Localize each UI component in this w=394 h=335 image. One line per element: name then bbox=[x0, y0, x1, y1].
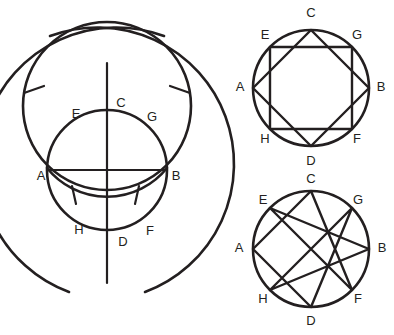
compass-tick-right bbox=[170, 86, 190, 93]
octagon-label-A: A bbox=[236, 79, 245, 94]
construction-label-D: D bbox=[118, 234, 127, 249]
octagon-label-E: E bbox=[261, 27, 270, 42]
geometry-figure: A B C D E F G H C E G A B H F D bbox=[0, 0, 394, 335]
figure-canvas: A B C D E F G H C E G A B H F D bbox=[0, 0, 394, 335]
construction-label-A: A bbox=[37, 168, 46, 183]
octagon-label-F: F bbox=[353, 131, 361, 146]
octagram-label-G: G bbox=[353, 192, 363, 207]
construction-label-B: B bbox=[172, 168, 181, 183]
panel-construction: A B C D E F G H bbox=[0, 22, 234, 292]
octagram-label-F: F bbox=[354, 291, 362, 306]
octagram-label-C: C bbox=[306, 171, 315, 186]
construction-label-E: E bbox=[72, 106, 81, 121]
construction-label-C: C bbox=[116, 95, 125, 110]
panel-octagon: C E G A B H F D bbox=[236, 5, 386, 168]
construction-arc-left bbox=[0, 27, 164, 292]
octagon-label-G: G bbox=[352, 27, 362, 42]
arc-tick-right bbox=[135, 186, 139, 204]
panel-octagram: C E G A B H F D bbox=[235, 171, 387, 328]
octagon-label-C: C bbox=[306, 5, 315, 20]
octagram-label-A: A bbox=[235, 240, 244, 255]
octagram-label-H: H bbox=[258, 291, 267, 306]
octagram-star-path bbox=[253, 191, 369, 307]
construction-label-G: G bbox=[147, 109, 157, 124]
construction-label-H: H bbox=[74, 222, 83, 237]
octagon-label-D: D bbox=[306, 153, 315, 168]
octagram-label-D: D bbox=[306, 313, 315, 328]
compass-tick-left bbox=[24, 86, 44, 93]
octagon-label-H: H bbox=[260, 131, 269, 146]
octagram-label-B: B bbox=[378, 240, 387, 255]
octagram-label-E: E bbox=[259, 192, 268, 207]
octagon-label-B: B bbox=[377, 79, 386, 94]
construction-label-F: F bbox=[146, 223, 154, 238]
construction-arc-right bbox=[50, 27, 234, 292]
